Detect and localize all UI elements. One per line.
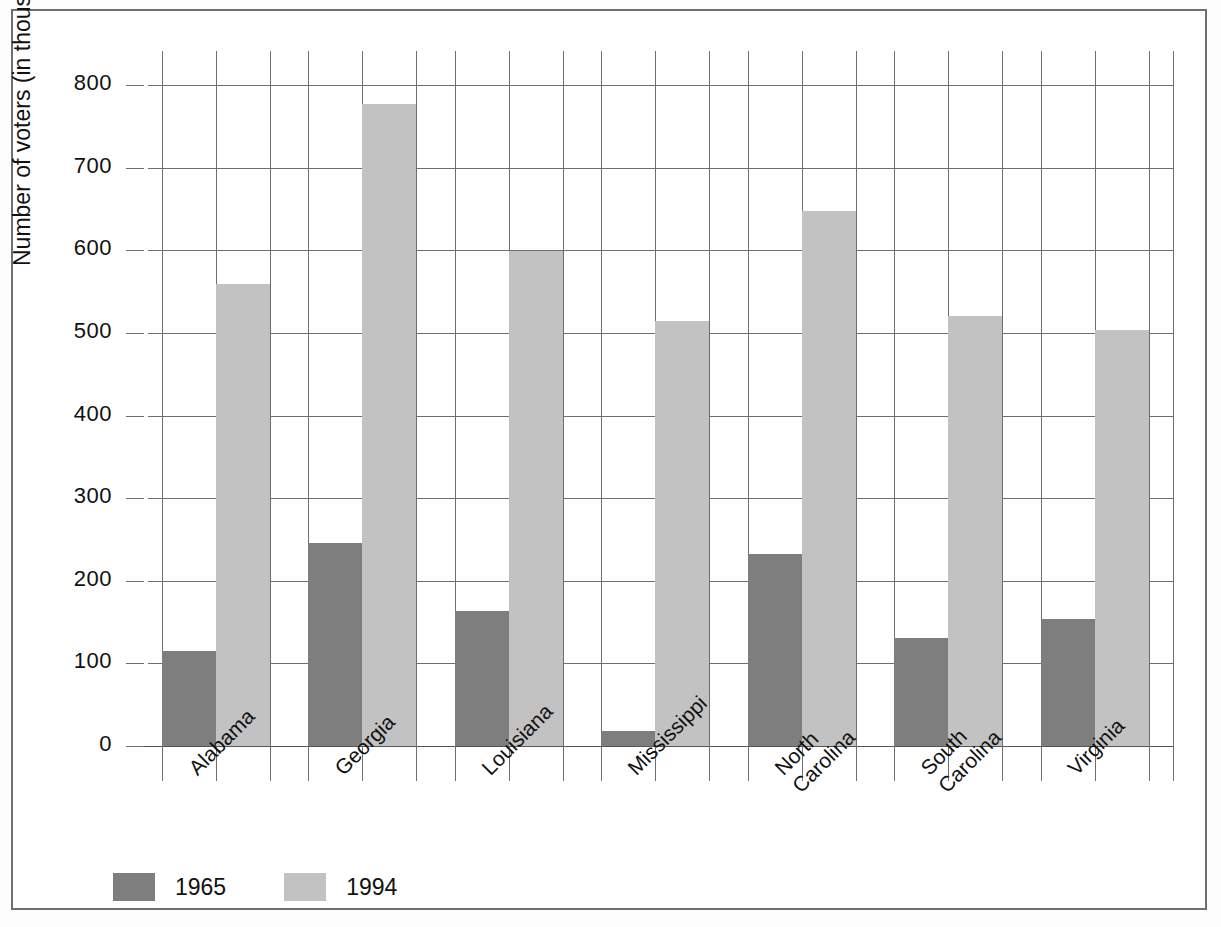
bar-south-carolina-1994 [948, 316, 1002, 746]
y-tick-label: 700 [20, 153, 112, 179]
y-tick-label: 400 [20, 401, 112, 427]
y-axis-title: Number of voters (in thousands) [9, 0, 36, 266]
y-tick-mark [126, 85, 144, 86]
bar-virginia-1994 [1095, 330, 1149, 746]
bar-virginia-1965 [1041, 619, 1095, 746]
plot-area [148, 51, 1173, 746]
bars-layer [148, 51, 1173, 746]
bar-louisiana-1994 [509, 251, 563, 746]
legend-swatch [284, 873, 326, 901]
bar-south-carolina-1965 [894, 638, 948, 746]
y-tick-mark [126, 663, 144, 664]
y-tick-label: 500 [20, 318, 112, 344]
y-tick-label: 800 [20, 70, 112, 96]
legend-item: 1994 [284, 873, 397, 901]
chart-legend: 19651994 [113, 873, 455, 901]
y-tick-mark [126, 168, 144, 169]
y-tick-mark [126, 416, 144, 417]
y-tick-mark [126, 746, 144, 747]
bar-georgia-1965 [308, 543, 362, 746]
y-tick-label: 300 [20, 483, 112, 509]
bar-mississippi-1994 [655, 321, 709, 746]
legend-item: 1965 [113, 873, 226, 901]
chart-page: Number of voters (in thousands) 01002003… [0, 0, 1221, 927]
y-tick-mark [126, 333, 144, 334]
gridline-vertical [1173, 51, 1174, 781]
bar-north-carolina-1965 [748, 554, 802, 746]
y-tick-mark [126, 250, 144, 251]
bar-louisiana-1965 [455, 611, 509, 746]
bar-alabama-1965 [162, 651, 216, 746]
bar-north-carolina-1994 [802, 211, 856, 746]
bar-alabama-1994 [216, 284, 270, 746]
legend-swatch [113, 873, 155, 901]
bar-georgia-1994 [362, 104, 416, 746]
y-tick-mark [126, 498, 144, 499]
y-tick-label: 0 [20, 731, 112, 757]
y-tick-label: 100 [20, 648, 112, 674]
y-tick-mark [126, 581, 144, 582]
legend-label: 1994 [346, 874, 397, 901]
legend-label: 1965 [175, 874, 226, 901]
y-tick-label: 200 [20, 566, 112, 592]
y-tick-label: 600 [20, 235, 112, 261]
chart-frame: Number of voters (in thousands) 01002003… [11, 9, 1207, 910]
